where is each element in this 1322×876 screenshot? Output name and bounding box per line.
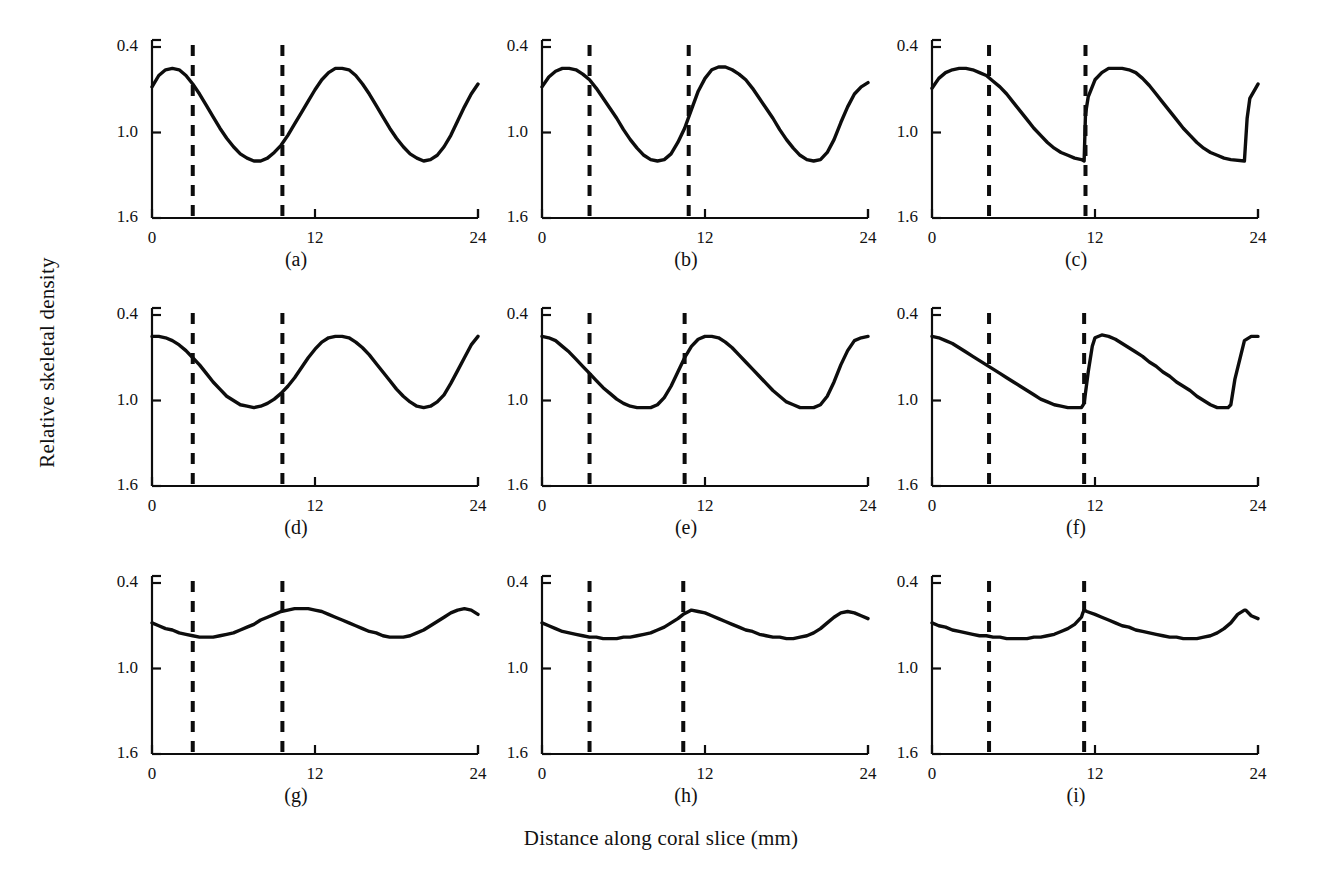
- y-tick-label-h: 1.6: [486, 743, 528, 763]
- x-tick-label-f: 12: [1065, 496, 1125, 516]
- y-tick-label-d: 1.6: [96, 475, 138, 495]
- y-tick-label-e: 1.0: [486, 390, 528, 410]
- panel-caption-b: (b): [486, 248, 886, 271]
- x-tick-label-d: 0: [122, 496, 182, 516]
- y-tick-label-f: 0.4: [876, 304, 918, 324]
- y-tick-label-e: 0.4: [486, 304, 528, 324]
- x-tick-label-e: 12: [675, 496, 735, 516]
- x-tick-label-e: 0: [512, 496, 572, 516]
- y-tick-label-b: 1.6: [486, 207, 528, 227]
- density-curve-f: [932, 335, 1258, 408]
- panel-a: 1.61.00.401224(a): [96, 20, 496, 282]
- panel-b: 1.61.00.401224(b): [486, 20, 886, 282]
- panel-caption-a: (a): [96, 248, 496, 271]
- x-tick-label-f: 24: [1228, 496, 1288, 516]
- x-tick-label-i: 24: [1228, 764, 1288, 784]
- y-tick-label-c: 1.6: [876, 207, 918, 227]
- panel-caption-i: (i): [876, 784, 1276, 807]
- x-tick-label-d: 12: [285, 496, 345, 516]
- panel-caption-g: (g): [96, 784, 496, 807]
- panel-g: 1.61.00.401224(g): [96, 556, 496, 818]
- x-tick-label-g: 0: [122, 764, 182, 784]
- panel-h: 1.61.00.401224(h): [486, 556, 886, 818]
- x-tick-label-a: 0: [122, 228, 182, 248]
- panel-caption-h: (h): [486, 784, 886, 807]
- panel-caption-e: (e): [486, 516, 886, 539]
- y-tick-label-g: 0.4: [96, 572, 138, 592]
- y-tick-label-d: 1.0: [96, 390, 138, 410]
- density-curve-c: [932, 68, 1258, 161]
- x-tick-label-i: 12: [1065, 764, 1125, 784]
- y-tick-label-h: 0.4: [486, 572, 528, 592]
- x-tick-label-c: 24: [1228, 228, 1288, 248]
- y-tick-label-g: 1.6: [96, 743, 138, 763]
- x-tick-label-f: 0: [902, 496, 962, 516]
- panel-i: 1.61.00.401224(i): [876, 556, 1276, 818]
- panel-caption-c: (c): [876, 248, 1276, 271]
- x-tick-label-b: 0: [512, 228, 572, 248]
- y-tick-label-i: 1.6: [876, 743, 918, 763]
- x-tick-label-c: 0: [902, 228, 962, 248]
- x-tick-label-h: 0: [512, 764, 572, 784]
- panel-d: 1.61.00.401224(d): [96, 288, 496, 550]
- panel-e: 1.61.00.401224(e): [486, 288, 886, 550]
- y-tick-label-d: 0.4: [96, 304, 138, 324]
- y-tick-label-e: 1.6: [486, 475, 528, 495]
- panel-caption-f: (f): [876, 516, 1276, 539]
- y-axis-label: Relative skeletal density: [35, 183, 60, 543]
- y-tick-label-b: 1.0: [486, 122, 528, 142]
- density-curve-a: [152, 68, 478, 161]
- y-tick-label-i: 1.0: [876, 658, 918, 678]
- y-tick-label-a: 0.4: [96, 36, 138, 56]
- y-axis-label-container: Relative skeletal density: [0, 200, 60, 620]
- y-tick-label-b: 0.4: [486, 36, 528, 56]
- y-tick-label-h: 1.0: [486, 658, 528, 678]
- panel-caption-d: (d): [96, 516, 496, 539]
- x-axis-label: Distance along coral slice (mm): [0, 826, 1322, 851]
- x-tick-label-b: 12: [675, 228, 735, 248]
- y-tick-label-g: 1.0: [96, 658, 138, 678]
- x-tick-label-i: 0: [902, 764, 962, 784]
- y-tick-label-a: 1.6: [96, 207, 138, 227]
- density-curve-i: [932, 610, 1258, 639]
- x-tick-label-h: 12: [675, 764, 735, 784]
- panel-c: 1.61.00.401224(c): [876, 20, 1276, 282]
- x-tick-label-g: 12: [285, 764, 345, 784]
- y-tick-label-f: 1.0: [876, 390, 918, 410]
- panel-grid: 1.61.00.401224(a)1.61.00.401224(b)1.61.0…: [96, 20, 1322, 820]
- x-tick-label-a: 12: [285, 228, 345, 248]
- x-tick-label-c: 12: [1065, 228, 1125, 248]
- y-tick-label-a: 1.0: [96, 122, 138, 142]
- panel-f: 1.61.00.401224(f): [876, 288, 1276, 550]
- y-tick-label-f: 1.6: [876, 475, 918, 495]
- y-tick-label-c: 0.4: [876, 36, 918, 56]
- density-curve-d: [152, 336, 478, 407]
- y-tick-label-c: 1.0: [876, 122, 918, 142]
- density-curve-g: [152, 609, 478, 638]
- coral-density-figure: Relative skeletal density 1.61.00.401224…: [0, 0, 1322, 876]
- y-tick-label-i: 0.4: [876, 572, 918, 592]
